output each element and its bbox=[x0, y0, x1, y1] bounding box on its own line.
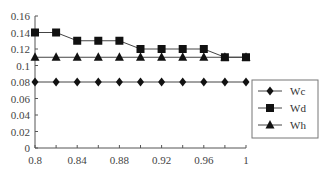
y-tick-label: 0 bbox=[25, 142, 31, 154]
triangle-marker bbox=[178, 52, 187, 61]
triangle-marker bbox=[199, 52, 208, 61]
diamond-marker bbox=[200, 78, 207, 87]
y-tick-label: 0.06 bbox=[11, 93, 31, 105]
triangle-marker bbox=[52, 52, 61, 61]
line-chart: 00.020.040.060.080.10.120.140.16 0.80.84… bbox=[0, 0, 321, 175]
legend-box bbox=[252, 80, 318, 138]
y-tick-label: 0.08 bbox=[11, 76, 31, 88]
triangle-marker bbox=[115, 52, 124, 61]
series-wc bbox=[32, 78, 250, 87]
legend-label: Wd bbox=[290, 102, 306, 114]
y-tick-label: 0.14 bbox=[11, 27, 31, 39]
square-marker bbox=[158, 45, 166, 53]
y-tick-label: 0.04 bbox=[11, 109, 31, 121]
square-marker bbox=[242, 53, 250, 61]
square-marker bbox=[94, 37, 102, 45]
x-axis: 0.80.840.880.920.961 bbox=[28, 145, 249, 166]
x-tick-label: 0.8 bbox=[28, 154, 42, 166]
legend-label: Wc bbox=[290, 85, 305, 97]
diamond-marker bbox=[74, 78, 81, 87]
x-tick-label: 0.88 bbox=[110, 154, 130, 166]
diamond-marker bbox=[243, 78, 250, 87]
x-tick-label: 0.84 bbox=[68, 154, 88, 166]
legend-label: Wh bbox=[290, 119, 306, 131]
y-tick-label: 0.12 bbox=[11, 43, 30, 55]
square-marker bbox=[52, 29, 60, 37]
diamond-marker bbox=[179, 78, 186, 87]
square-marker bbox=[221, 53, 229, 61]
diamond-marker bbox=[137, 78, 144, 87]
diamond-marker bbox=[158, 78, 165, 87]
diamond-marker bbox=[221, 78, 228, 87]
x-tick-label: 1 bbox=[243, 154, 249, 166]
series-wh bbox=[31, 52, 251, 61]
x-tick-label: 0.96 bbox=[194, 154, 214, 166]
y-tick-label: 0.16 bbox=[11, 10, 31, 22]
series-group bbox=[31, 29, 251, 87]
diamond-marker bbox=[53, 78, 60, 87]
diamond-marker bbox=[32, 78, 39, 87]
diamond-marker bbox=[116, 78, 123, 87]
triangle-marker bbox=[31, 52, 40, 61]
square-marker bbox=[200, 45, 208, 53]
y-tick-label: 0.02 bbox=[11, 126, 30, 138]
triangle-marker bbox=[94, 52, 103, 61]
diamond-marker bbox=[95, 78, 102, 87]
square-marker bbox=[73, 37, 81, 45]
square-marker bbox=[115, 37, 123, 45]
triangle-marker bbox=[73, 52, 82, 61]
square-marker bbox=[31, 29, 39, 37]
triangle-marker bbox=[136, 52, 145, 61]
legend: WcWdWh bbox=[252, 80, 318, 138]
x-tick-label: 0.92 bbox=[152, 154, 171, 166]
y-tick-label: 0.1 bbox=[16, 60, 30, 72]
square-marker bbox=[266, 104, 274, 112]
square-marker bbox=[137, 45, 145, 53]
square-marker bbox=[179, 45, 187, 53]
triangle-marker bbox=[157, 52, 166, 61]
